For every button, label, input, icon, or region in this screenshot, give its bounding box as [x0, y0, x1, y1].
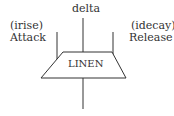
attack-label: Attack — [10, 32, 46, 44]
delta-label: delta — [72, 3, 100, 15]
linen-label: LINEN — [68, 58, 103, 70]
release-label: Release — [129, 32, 173, 44]
